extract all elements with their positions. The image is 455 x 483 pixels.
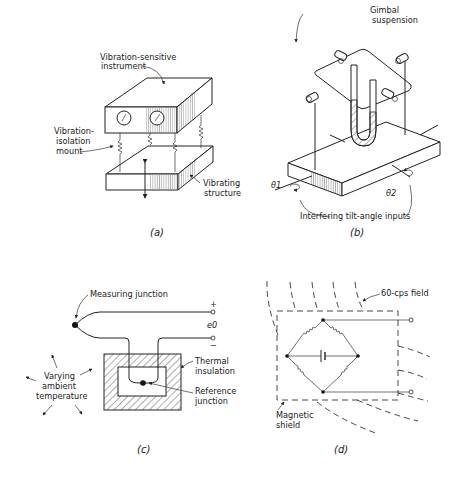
label-ambient-3: temperature (36, 391, 87, 401)
label-plus: + (210, 299, 217, 309)
measuring-junction-dot (72, 322, 78, 328)
label-theta2: θ2 (386, 188, 396, 198)
label-shield-2: shield (276, 420, 300, 430)
label-insulation: Thermal (194, 356, 229, 366)
label-gimbal: Gimbal (370, 5, 399, 15)
label-field: 60-cps field (381, 288, 429, 298)
label-structure-2: structure (204, 188, 241, 198)
label-measuring-junction: Measuring junction (90, 289, 168, 299)
wheatstone-bridge (285, 318, 413, 394)
label-theta1: θ1 (271, 180, 281, 190)
output-terminal (409, 390, 413, 394)
caption-a: (a) (150, 227, 164, 238)
label-instrument-2: instrument (101, 61, 147, 71)
figure-canvas: Vibration-sensitive instrument Vibration… (0, 0, 455, 483)
caption-c: (c) (137, 444, 150, 455)
panel-d-bridge-shield: 60-cps field Magnetic shield (d) (267, 281, 430, 455)
panel-c-thermocouple: Measuring junction + e0 − Varying ambien… (26, 289, 236, 455)
label-minus: − (210, 340, 217, 350)
reference-junction-dot (140, 380, 146, 386)
label-shield: Magnetic (276, 410, 314, 420)
panel-a-vibration-isolation: Vibration-sensitive instrument Vibration… (54, 52, 241, 238)
label-structure: Vibrating (203, 178, 240, 188)
label-mount-2: isolation (56, 136, 91, 146)
output-terminal (409, 318, 413, 322)
label-insulation-2: insulation (195, 366, 235, 376)
vibrating-structure-plate (106, 146, 213, 190)
label-mount: Vibration- (54, 126, 94, 136)
label-ambient-2: ambient (42, 381, 77, 391)
terminal-plus (211, 310, 215, 314)
label-reference: Reference (195, 386, 236, 396)
base-slab (288, 122, 440, 196)
caption-b: (b) (350, 227, 364, 238)
label-mount-3: mount (56, 146, 83, 156)
instrument-box (105, 78, 212, 133)
label-reference-2: junction (194, 396, 228, 406)
label-tilt-inputs: Interfering tilt-angle inputs (300, 211, 410, 221)
label-eo: e0 (207, 320, 217, 330)
caption-d: (d) (334, 444, 348, 455)
magnetic-shield (277, 311, 398, 400)
panel-b-gimbal-manometer: Gimbal suspension θ1 θ2 Interfering tilt… (271, 5, 440, 238)
label-ambient: Varying (44, 371, 75, 381)
label-gimbal-2: suspension (372, 15, 418, 25)
